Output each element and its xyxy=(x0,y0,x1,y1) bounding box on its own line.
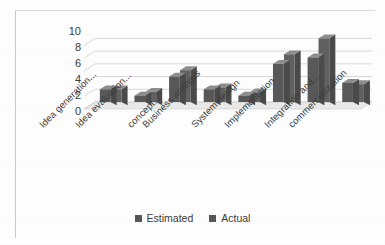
chart-container: 10 8 6 4 2 0 Idea generation... Idea eva… xyxy=(0,0,385,245)
legend-item-estimated[interactable]: Estimated xyxy=(135,212,194,224)
legend-item-actual[interactable]: Actual xyxy=(209,212,250,224)
chart-legend: Estimated Actual xyxy=(0,212,385,224)
y-tick-label: 10 xyxy=(69,26,81,37)
legend-label: Actual xyxy=(221,212,250,224)
legend-swatch-icon xyxy=(135,215,142,222)
legend-swatch-icon xyxy=(209,215,216,222)
y-tick-label: 6 xyxy=(75,58,81,69)
y-tick-label: 8 xyxy=(75,42,81,53)
legend-label: Estimated xyxy=(147,212,194,224)
x-axis-category-labels: Idea generation... Idea evaluation... co… xyxy=(0,116,385,201)
